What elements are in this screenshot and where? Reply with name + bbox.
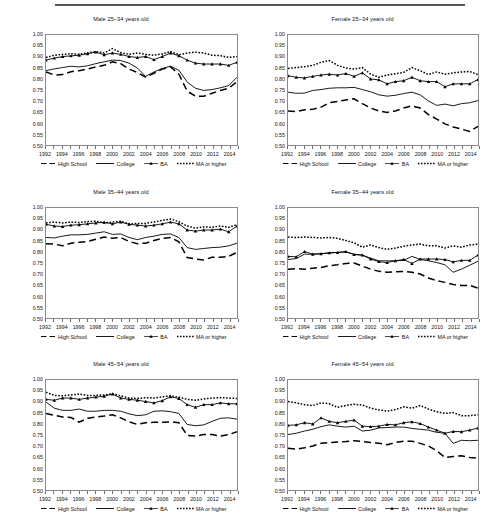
x-tick (179, 491, 180, 494)
x-tick-label: 2006 (398, 151, 410, 157)
x-tick (312, 146, 313, 149)
y-tick-label: 0.50 (33, 489, 43, 494)
series-marker (136, 399, 139, 402)
y-tick-label: 0.85 (33, 66, 43, 71)
series-marker (352, 418, 355, 421)
legend-label: BA (160, 506, 167, 512)
series-marker (227, 64, 230, 67)
series-marker (328, 73, 331, 76)
x-tick (412, 319, 413, 322)
panel-title: Female 35–44 years old (242, 189, 483, 195)
series-marker (111, 392, 114, 395)
x-tick (45, 146, 46, 149)
series-marker (69, 396, 72, 399)
x-tick-label: 1994 (56, 324, 68, 330)
y-tick-label: 0.85 (33, 411, 43, 416)
legend: High SchoolCollegeBAMA or higher (272, 505, 479, 512)
x-tick (329, 491, 330, 494)
y-tick-label: 0.80 (275, 77, 285, 82)
y-tick-label: 1.00 (275, 32, 285, 37)
x-tick (295, 491, 296, 494)
x-tick-label: 1998 (89, 324, 101, 330)
series-marker (468, 259, 471, 262)
series-marker (53, 224, 56, 227)
series-marker (319, 416, 322, 419)
series-marker (210, 62, 213, 65)
x-tick-label: 2014 (465, 151, 477, 157)
x-tick (112, 319, 113, 322)
x-tick-label: 2002 (365, 496, 377, 502)
series-marker (94, 221, 97, 224)
x-tick (437, 319, 438, 322)
x-tick (421, 491, 422, 494)
legend-swatch-dotted-icon (177, 160, 194, 167)
y-tick-label: 0.80 (275, 422, 285, 427)
x-tick (129, 146, 130, 149)
y-tick-label: 0.70 (275, 445, 285, 450)
x-tick (387, 146, 388, 149)
x-tick (87, 146, 88, 149)
x-tick (404, 491, 405, 494)
series-marker (161, 399, 164, 402)
y-tick-label: 1.00 (275, 377, 285, 382)
legend: High SchoolCollegeBAMA or higher (30, 333, 238, 340)
series-marker (94, 395, 97, 398)
series-marker (435, 428, 438, 431)
legend-swatch-solid-marker-triangle-icon (385, 160, 399, 167)
x-tick-label: 1994 (298, 496, 310, 502)
y-tick-label: 0.60 (33, 295, 43, 300)
x-tick (230, 319, 231, 322)
series-marker (144, 55, 147, 58)
series-marker (394, 259, 397, 262)
y-tick-label: 0.55 (33, 306, 43, 311)
x-axis-labels: 1992199419961998200020022004200620082010… (45, 150, 238, 159)
y-tick-label: 0.55 (33, 478, 43, 483)
series-marker (476, 78, 478, 81)
legend-swatch-solid-marker-triangle-icon (144, 505, 158, 512)
series-marker (219, 227, 222, 230)
chart-panel: Male 25–34 years old1.000.950.900.850.80… (0, 8, 242, 181)
x-tick-label: 1996 (73, 324, 85, 330)
x-tick (104, 319, 105, 322)
x-tick-label: 2008 (415, 496, 427, 502)
y-tick-label: 1.00 (33, 377, 43, 382)
legend-item: High School (283, 333, 329, 340)
legend-item: High School (41, 505, 87, 512)
series-marker (402, 421, 405, 424)
y-tick-label: 0.95 (275, 44, 285, 49)
x-tick (154, 491, 155, 494)
series-marker (303, 421, 306, 424)
x-tick (121, 146, 122, 149)
x-tick-label: 1994 (298, 324, 310, 330)
plot-frame: 1.000.950.900.850.800.750.700.650.600.55… (45, 379, 238, 491)
x-axis-labels: 1992199419961998200020022004200620082010… (287, 495, 479, 504)
x-tick (53, 146, 54, 149)
y-tick-label: 0.85 (33, 239, 43, 244)
y-tick-label: 0.90 (275, 228, 285, 233)
y-tick-label: 0.95 (275, 217, 285, 222)
x-tick-label: 1998 (89, 151, 101, 157)
x-tick-label: 1992 (39, 324, 51, 330)
x-tick-label: 2008 (173, 151, 185, 157)
series-marker (235, 402, 237, 405)
x-tick (295, 319, 296, 322)
y-tick-label: 0.70 (33, 273, 43, 278)
legend-label: High School (58, 334, 87, 340)
series-marker (344, 250, 347, 253)
series-marker (185, 228, 188, 231)
series-marker (344, 72, 347, 75)
y-tick-label: 0.75 (275, 261, 285, 266)
series-marker (61, 396, 64, 399)
series-marker (169, 220, 172, 223)
x-tick-label: 2014 (224, 151, 236, 157)
x-tick-label: 2004 (381, 324, 393, 330)
legend-label: BA (402, 506, 409, 512)
legend-item: High School (41, 333, 87, 340)
series-marker (468, 82, 471, 85)
x-tick (345, 146, 346, 149)
y-tick-label: 0.80 (33, 77, 43, 82)
series-marker (361, 71, 364, 74)
legend-swatch-solid-marker-triangle-icon (385, 505, 399, 512)
x-tick-label: 2000 (348, 324, 360, 330)
series-marker (227, 230, 230, 233)
